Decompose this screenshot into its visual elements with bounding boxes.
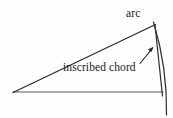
arc-label: arc [126,8,140,20]
figure-canvas [0,0,173,118]
slanted-radius-line [13,25,156,93]
inscribed-chord-label: inscribed chord [63,62,136,74]
geometry-figure: arc inscribed chord [0,0,173,118]
inscribed-chord-line [155,25,163,96]
leader-arrow-icon [140,47,154,64]
